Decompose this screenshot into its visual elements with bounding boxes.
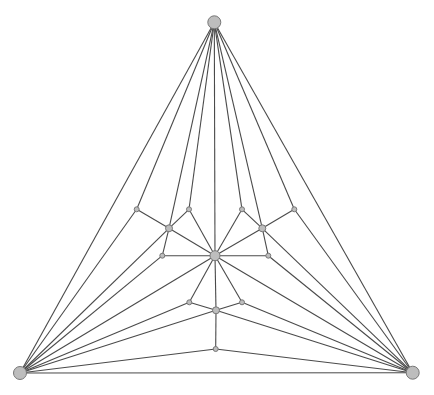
- node-center: [210, 251, 220, 261]
- node-B2: [259, 225, 266, 232]
- node-D2: [266, 253, 271, 258]
- node-C2: [240, 207, 245, 212]
- edge-B2-D2: [262, 228, 268, 255]
- edge-B-bottom-left: [20, 228, 169, 373]
- edge-B-center: [169, 228, 215, 255]
- graph-edges: [20, 22, 413, 373]
- edge-E-F: [189, 302, 216, 310]
- edge-C2-center: [215, 209, 242, 255]
- node-C: [187, 207, 192, 212]
- edge-B2-bottom-right: [262, 228, 412, 372]
- edge-center-bottom-left: [20, 256, 215, 373]
- edge-top-center: [214, 22, 215, 255]
- graph-diagram: [0, 0, 434, 395]
- edge-C-center: [189, 209, 215, 255]
- node-bottom-left: [14, 367, 27, 380]
- node-bottom-right: [406, 366, 419, 379]
- edge-center-E2: [215, 256, 242, 303]
- edge-top-A: [137, 22, 215, 209]
- node-F: [213, 307, 220, 314]
- edge-A-B: [137, 209, 169, 228]
- node-E2: [240, 300, 245, 305]
- edge-center-E: [189, 256, 215, 303]
- node-A2: [292, 207, 297, 212]
- edge-C2-B2: [242, 209, 262, 228]
- edge-top-C: [189, 22, 214, 209]
- edge-center-F: [215, 256, 216, 311]
- edge-E2-F: [216, 302, 242, 310]
- node-D: [160, 253, 165, 258]
- node-E: [187, 300, 192, 305]
- node-G: [213, 347, 218, 352]
- node-top: [208, 16, 221, 29]
- edge-top-C2: [214, 22, 242, 209]
- edge-top-A2: [214, 22, 294, 209]
- node-B: [166, 225, 173, 232]
- edge-top-bottom-right: [214, 22, 412, 372]
- edge-top-B: [169, 22, 214, 228]
- edge-top-B2: [214, 22, 262, 228]
- edge-A2-B2: [262, 209, 294, 228]
- node-A: [134, 207, 139, 212]
- edge-B-D: [162, 228, 169, 255]
- edge-B2-center: [215, 228, 262, 255]
- edge-center-bottom-right: [215, 256, 413, 373]
